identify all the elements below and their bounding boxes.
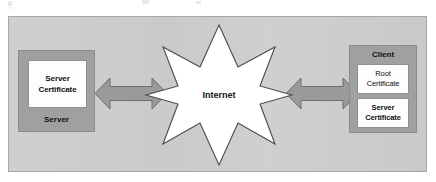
client-server-certificate-label-line2: Certificate <box>365 113 401 123</box>
scan-speck <box>8 1 12 6</box>
internet-cloud-starburst-icon <box>144 23 294 167</box>
client-node-label: Client <box>350 50 416 59</box>
scan-speck <box>142 0 149 4</box>
server-node-label: Server <box>19 115 94 124</box>
server-certificate-label-line1: Server <box>45 73 69 84</box>
server-node: Server Certificate Server <box>18 50 95 132</box>
scan-speck <box>196 1 201 4</box>
server-certificate-label-line2: Certificate <box>38 84 76 95</box>
server-certificate-card: Server Certificate <box>28 60 87 108</box>
client-server-certificate-card: Server Certificate <box>357 98 409 128</box>
client-root-certificate-label-line1: Root <box>375 69 390 79</box>
client-server-certificate-label-line1: Server <box>372 103 395 113</box>
diagram-panel: Server Certificate Server Internet Clien… <box>8 16 427 172</box>
internet-to-client-arrow-icon <box>286 75 358 112</box>
client-root-certificate-card: Root Certificate <box>357 64 409 94</box>
client-root-certificate-label-line2: Certificate <box>367 79 400 89</box>
client-node: Client Root Certificate Server Certifica… <box>349 45 417 133</box>
scan-artifact-strip <box>0 0 436 14</box>
scan-speck <box>9 7 12 9</box>
